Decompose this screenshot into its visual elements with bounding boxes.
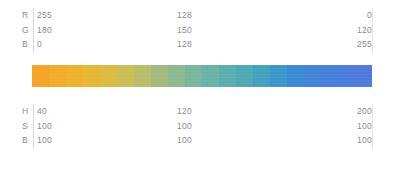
- channel-letter-h: H: [22, 104, 33, 119]
- channel-value-s-end: 100: [338, 119, 372, 134]
- channel-right-divider: [372, 8, 373, 52]
- channel-value-b2-mid: 100: [177, 133, 211, 148]
- channel-value-g-end: 120: [338, 23, 372, 38]
- channel-value-r-end: 0: [338, 8, 372, 23]
- rgb-block: R 255 128 0 G 180 150 120 B 0 128 255: [0, 8, 394, 52]
- channel-value-b2-end: 100: [338, 133, 372, 148]
- channel-row-b2: B 100 100 100: [22, 133, 372, 148]
- channel-row-b: B 0 128 255: [22, 37, 372, 52]
- channel-letter-r: R: [22, 8, 33, 23]
- channel-letter-g: G: [22, 23, 33, 38]
- channel-letter-b: B: [22, 37, 33, 52]
- gradient-comparison-figure: R 255 128 0 G 180 150 120 B 0 128 255: [0, 0, 394, 192]
- channel-letter-s: S: [22, 119, 33, 134]
- channel-row-g: G 180 150 120: [22, 23, 372, 38]
- channel-value-b2-start: 100: [37, 133, 71, 148]
- rgb-gradient-bar: [32, 65, 372, 87]
- channel-value-h-end: 200: [338, 104, 372, 119]
- channel-value-r-mid: 128: [177, 8, 211, 23]
- channel-row-h: H 40 120 200: [22, 104, 372, 119]
- channel-value-b-mid: 128: [177, 37, 211, 52]
- channel-value-s-start: 100: [37, 119, 71, 134]
- channel-value-r-start: 255: [37, 8, 71, 23]
- channel-value-s-mid: 100: [177, 119, 211, 134]
- hsb-block: H 40 120 200 S 100 100 100 B 100 100 100: [0, 104, 394, 148]
- channel-row-s: S 100 100 100: [22, 119, 372, 134]
- rgb-channel-table: R 255 128 0 G 180 150 120 B 0 128 255: [22, 8, 372, 52]
- channel-letter-b2: B: [22, 133, 33, 148]
- hsb-channel-table: H 40 120 200 S 100 100 100 B 100 100 100: [22, 104, 372, 148]
- channel-row-r: R 255 128 0: [22, 8, 372, 23]
- channel-value-h-start: 40: [37, 104, 71, 119]
- channel-value-b-end: 255: [338, 37, 372, 52]
- rgb-gradient-fill: [32, 65, 372, 87]
- channel-right-divider: [372, 104, 373, 148]
- channel-value-b-start: 0: [37, 37, 71, 52]
- channel-value-h-mid: 120: [177, 104, 211, 119]
- channel-value-g-start: 180: [37, 23, 71, 38]
- channel-value-g-mid: 150: [177, 23, 211, 38]
